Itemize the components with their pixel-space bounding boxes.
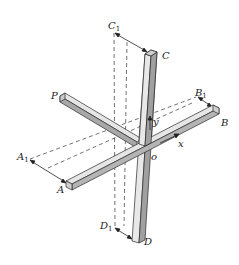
arrowhead-c [142,48,147,52]
label-c1: C1 [108,20,120,33]
label-d1: D1 [99,220,113,233]
diagram-canvas: C1 C P B1 B y x o A1 A D1 D [0,0,239,265]
label-y: y [152,116,159,127]
label-b: B [220,117,228,128]
label-c: C [162,50,170,61]
arrow-c1-c [116,34,146,51]
label-o: o [151,151,157,162]
label-x: x [178,138,184,149]
label-p: P [50,90,58,101]
arrowhead-c1 [115,33,120,37]
arrow-a1-a [31,161,65,182]
label-a1: A1 [16,151,29,164]
label-d: D [143,236,152,247]
cross-frame-diagram: C1 C P B1 B y x o A1 A D1 D [0,0,239,265]
label-a: A [56,184,64,195]
bar-p-top-face [60,93,142,142]
bar-p [60,93,142,148]
